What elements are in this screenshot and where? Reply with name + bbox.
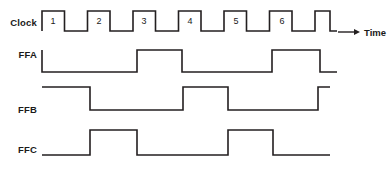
row-label-ffa: FFA	[0, 49, 37, 60]
clock-cycle-number: 5	[229, 16, 243, 27]
clock-cycle-number: 2	[92, 16, 106, 27]
row-label-ffc: FFC	[0, 144, 37, 155]
clock-cycle-number: 1	[46, 16, 60, 27]
row-label-ffb: FFB	[0, 104, 37, 115]
time-axis-label: Time	[364, 27, 386, 38]
row-label-clock: Clock	[0, 17, 37, 28]
clock-cycle-number: 3	[137, 16, 151, 27]
time-axis-group	[338, 29, 360, 35]
time-arrow-head	[354, 29, 360, 35]
waveform-ffc	[42, 130, 330, 155]
timing-diagram: Clock FFA FFB FFC 123456 Time	[0, 0, 391, 169]
waveform-ffb	[42, 87, 330, 110]
waveform-ffa	[42, 50, 337, 72]
clock-cycle-number: 6	[275, 16, 289, 27]
clock-cycle-number: 4	[183, 16, 197, 27]
